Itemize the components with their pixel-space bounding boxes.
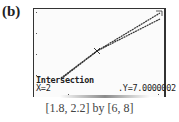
curve-1 — [61, 13, 160, 78]
window-caption: [1.8, 2.2] by [6, 8] — [0, 101, 179, 116]
x-readout: X=2 — [36, 84, 50, 92]
panel-label: (b) — [2, 3, 20, 20]
calculator-screen: Intersection X=2 .Y=7.0000002 — [33, 8, 166, 97]
intersection-cursor — [94, 48, 100, 54]
y-ticks — [36, 12, 37, 76]
curve-2 — [61, 19, 160, 79]
screen-shadow — [60, 95, 150, 98]
y-readout: .Y=7.0000002 — [118, 84, 176, 92]
